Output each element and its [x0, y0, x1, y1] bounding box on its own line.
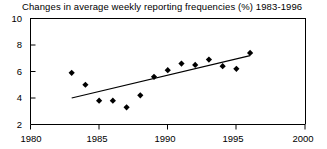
- data-point-group: [69, 50, 254, 111]
- data-point: [123, 104, 129, 110]
- data-point: [247, 50, 253, 56]
- data-point: [137, 92, 143, 98]
- data-point: [69, 70, 75, 76]
- chart-figure: Changes in average weekly reporting freq…: [0, 0, 327, 149]
- data-point: [96, 98, 102, 104]
- data-point: [220, 63, 226, 69]
- plot-area: [0, 0, 327, 149]
- data-point: [178, 60, 184, 66]
- y-tick-marks: [31, 19, 36, 125]
- data-point: [165, 67, 171, 73]
- data-point: [110, 98, 116, 104]
- data-point: [206, 56, 212, 62]
- trend-line: [72, 56, 250, 98]
- data-point: [233, 66, 239, 72]
- data-point: [192, 62, 198, 68]
- data-point: [82, 82, 88, 88]
- x-tick-marks: [31, 125, 306, 130]
